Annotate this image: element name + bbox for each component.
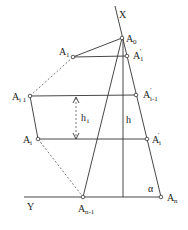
svg-text:′: ′ — [150, 86, 152, 94]
point-an — [159, 195, 163, 199]
svg-text:i: i — [87, 117, 89, 125]
point-an1 — [81, 195, 85, 199]
svg-text:0: 0 — [133, 38, 137, 46]
diagram-canvas: X Y A 0 A 1 A ′ 1 A i 1 A ′ i-1 A i A ′ … — [0, 0, 188, 230]
svg-text:n-1: n-1 — [85, 208, 95, 216]
svg-text:1: 1 — [140, 55, 144, 63]
label-a1p: A ′ 1 — [133, 47, 144, 63]
line-ai1-ai1p — [30, 95, 136, 96]
label-a1: A 1 — [59, 46, 70, 59]
label-ai1p: A ′ i-1 — [143, 86, 158, 103]
label-alpha: α — [148, 183, 154, 194]
line-ai1-ai — [30, 96, 38, 139]
label-an: A n — [167, 192, 178, 205]
label-a0: A 0 — [126, 33, 137, 46]
label-hi: h i — [81, 112, 89, 125]
svg-text:n: n — [174, 197, 178, 205]
point-a1p — [125, 54, 129, 58]
svg-text:′: ′ — [140, 47, 142, 55]
svg-text:i 1: i 1 — [19, 96, 27, 104]
line-a1-a1p — [73, 56, 127, 57]
svg-text:1: 1 — [66, 51, 70, 59]
svg-text:i-1: i-1 — [150, 95, 158, 103]
point-a0 — [120, 36, 124, 40]
dashed-ai-an1 — [38, 139, 83, 197]
label-an1: A n-1 — [78, 203, 95, 216]
point-ai1p — [134, 93, 138, 97]
svg-text:i: i — [30, 139, 32, 147]
point-ai1 — [28, 94, 32, 98]
label-ai1: A i 1 — [12, 91, 27, 104]
svg-text:h: h — [81, 112, 86, 123]
point-a1 — [71, 55, 75, 59]
svg-text:′: ′ — [158, 131, 160, 139]
point-aip — [145, 137, 149, 141]
label-y: Y — [27, 201, 34, 212]
label-ai: A i — [23, 134, 32, 147]
line-a1-a0 — [73, 38, 122, 57]
svg-text:i: i — [159, 139, 161, 147]
dashed-a1-ai1 — [30, 57, 73, 96]
point-ai — [36, 137, 40, 141]
label-x: X — [119, 9, 127, 20]
label-aip: A ′ i — [152, 131, 161, 147]
label-h: h — [126, 114, 131, 125]
